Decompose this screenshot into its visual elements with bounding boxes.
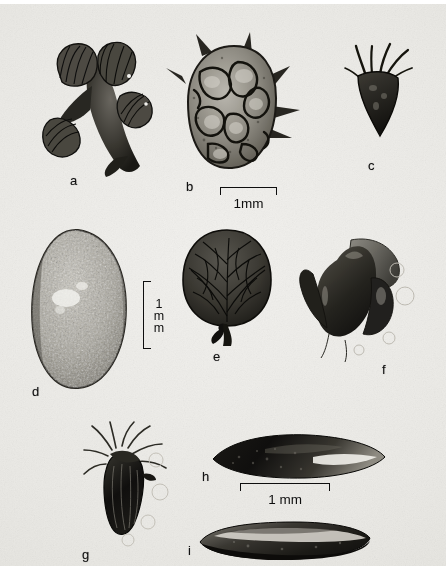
specimen-a-image <box>36 34 156 179</box>
specimen-i-image <box>190 516 375 566</box>
specimen-label-g: g <box>82 548 89 561</box>
specimen-label-e: e <box>213 350 220 363</box>
scale-bar-bottom-rule <box>240 483 330 491</box>
scale-bar-top-rule <box>220 187 277 195</box>
specimen-label-i: i <box>188 544 191 557</box>
specimen-h-image <box>205 429 390 484</box>
scale-bar-top: 1mm <box>220 187 277 211</box>
specimen-d-image <box>22 226 137 394</box>
scale-bar-middle-rule <box>143 281 151 349</box>
specimen-label-f: f <box>382 363 386 376</box>
specimen-label-b: b <box>186 180 193 193</box>
specimen-label-d: d <box>32 385 39 398</box>
specimen-g-image <box>82 422 172 547</box>
specimen-f-image <box>285 234 420 364</box>
specimen-b-image <box>164 32 304 182</box>
scale-bar-bottom-caption: 1 mm <box>240 492 330 507</box>
scale-bar-middle: 1mm <box>143 282 166 348</box>
specimen-label-h: h <box>202 470 209 483</box>
photographic-print: a <box>0 4 446 566</box>
specimen-label-a: a <box>70 174 77 187</box>
specimen-label-c: c <box>368 159 375 172</box>
scale-bar-middle-caption: 1mm <box>152 297 166 333</box>
scale-bar-bottom: 1 mm <box>240 483 330 507</box>
specimen-e-image <box>175 226 280 351</box>
figure-plate: a <box>0 0 446 583</box>
scale-bar-top-caption: 1mm <box>220 196 277 211</box>
specimen-c-image <box>340 42 420 154</box>
